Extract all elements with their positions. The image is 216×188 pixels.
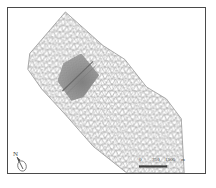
map-figure: N 0 750 1500 m	[0, 0, 216, 188]
scale-unit: m	[181, 156, 185, 164]
scale-bar-icon	[139, 165, 186, 169]
map-canvas	[8, 8, 205, 173]
north-arrow-icon: N	[11, 148, 35, 174]
north-arrow-label: N	[13, 150, 18, 158]
scale-bar-graphic	[139, 165, 186, 169]
scale-tick-0: 0	[139, 156, 142, 164]
scale-bar: 0 750 1500 m	[139, 156, 191, 172]
scale-segment-2	[153, 166, 167, 168]
north-arrow: N	[11, 148, 35, 174]
scale-segment-1	[139, 166, 153, 168]
scale-tick-1500: 1500	[165, 156, 175, 164]
scale-bar-labels: 0 750 1500 m	[139, 156, 191, 164]
scale-tick-750: 750	[152, 156, 160, 164]
map-frame	[7, 7, 206, 174]
